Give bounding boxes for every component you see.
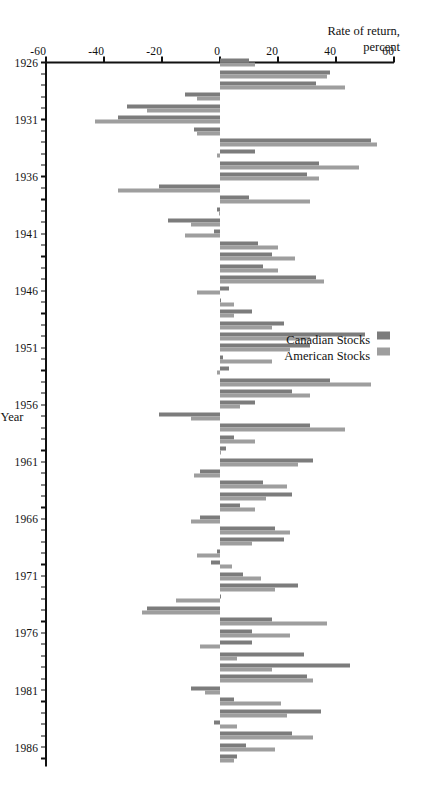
year-axis-tick	[41, 278, 46, 279]
value-axis-tick	[277, 56, 278, 62]
bar	[177, 598, 221, 602]
legend-label: American Stocks	[284, 348, 370, 363]
bar	[220, 256, 295, 260]
year-axis-tick	[41, 324, 46, 325]
year-axis-tick	[41, 461, 46, 462]
bar	[220, 507, 255, 511]
year-axis-tick	[41, 746, 46, 747]
bar	[217, 549, 220, 553]
bar	[220, 347, 290, 351]
year-axis-tick	[41, 335, 46, 336]
bar	[220, 149, 255, 153]
year-axis-tick	[41, 678, 46, 679]
bar	[220, 199, 310, 203]
year-axis-tick-label: 1966	[15, 512, 38, 524]
bar	[220, 404, 240, 408]
bar	[220, 252, 272, 256]
bar	[220, 382, 371, 386]
year-axis-tick	[41, 529, 46, 530]
year-axis-tick	[41, 495, 46, 496]
year-axis-tick	[41, 198, 46, 199]
bar	[214, 720, 220, 724]
bar	[220, 435, 235, 439]
bar	[220, 674, 307, 678]
bar	[194, 127, 220, 131]
year-axis-tick-label: 1961	[15, 455, 38, 467]
year-axis-tick	[41, 449, 46, 450]
value-axis-tick-label: 0	[214, 44, 220, 56]
bar	[185, 92, 220, 96]
bar	[220, 279, 324, 283]
year-axis-tick-label: 1931	[15, 113, 38, 125]
bar	[197, 131, 220, 135]
bar	[220, 652, 304, 656]
bar	[220, 70, 330, 74]
bar	[220, 496, 266, 500]
year-axis-tick-label: 1951	[15, 341, 38, 353]
value-axis-tick	[335, 56, 336, 62]
value-axis-tick	[161, 56, 162, 62]
year-axis-tick	[41, 381, 46, 382]
bar	[220, 366, 229, 370]
year-axis-tick	[41, 712, 46, 713]
bar	[220, 667, 272, 671]
bar	[220, 138, 371, 142]
bar	[220, 172, 307, 176]
bar	[220, 503, 240, 507]
year-axis-tick	[41, 666, 46, 667]
bar	[220, 492, 293, 496]
year-axis-tick	[41, 506, 46, 507]
legend-label: Canadian Stocks	[286, 332, 370, 347]
value-axis-tick-label: 20	[266, 44, 278, 56]
year-axis-tick	[41, 655, 46, 656]
bar	[220, 587, 275, 591]
bar	[220, 268, 278, 272]
bar	[220, 439, 255, 443]
bar	[220, 572, 243, 576]
bar	[220, 378, 330, 382]
value-axis-tick	[103, 56, 104, 62]
year-axis-tick	[41, 620, 46, 621]
year-axis-tick	[41, 175, 46, 176]
bar	[220, 393, 310, 397]
year-axis-tick	[41, 586, 46, 587]
year-axis-tick	[41, 221, 46, 222]
bar	[220, 325, 272, 329]
bar	[220, 389, 293, 393]
bar	[119, 115, 221, 119]
year-axis-tick	[41, 233, 46, 234]
bar	[220, 275, 316, 279]
value-axis-tick-label: -60	[30, 44, 46, 56]
bar	[220, 594, 221, 598]
year-axis-tick	[41, 107, 46, 108]
year-axis-tick	[41, 347, 46, 348]
bar	[220, 629, 252, 633]
bar	[220, 697, 235, 701]
bar	[217, 153, 220, 157]
bar	[220, 633, 290, 637]
year-axis-tick	[41, 164, 46, 165]
bar	[185, 233, 220, 237]
bar	[220, 640, 252, 644]
bar	[200, 469, 220, 473]
year-axis-tick	[41, 723, 46, 724]
year-axis-tick	[41, 210, 46, 211]
bar	[220, 313, 235, 317]
bar	[211, 560, 220, 564]
bar	[220, 656, 237, 660]
bar	[220, 621, 327, 625]
year-axis-tick	[41, 61, 46, 62]
bar	[197, 553, 220, 557]
legend-swatch	[377, 331, 390, 339]
year-axis-tick	[41, 689, 46, 690]
bar	[220, 530, 290, 534]
bar	[220, 241, 258, 245]
bar	[220, 458, 313, 462]
bar	[220, 298, 221, 302]
bar	[220, 427, 345, 431]
bar	[220, 423, 310, 427]
year-axis-tick	[41, 312, 46, 313]
bar	[220, 161, 319, 165]
bar	[220, 743, 246, 747]
year-axis-tick	[41, 438, 46, 439]
